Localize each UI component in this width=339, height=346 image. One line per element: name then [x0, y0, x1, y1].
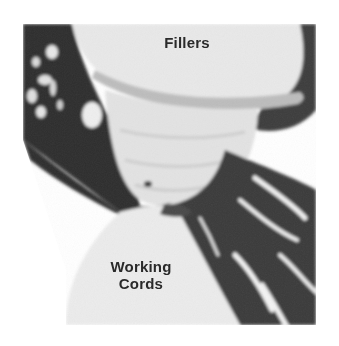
- fillers-label: Fillers: [150, 34, 224, 51]
- working-cords-label-line1: Working: [95, 258, 187, 275]
- macrame-knot-photo: [0, 0, 339, 346]
- working-cords-label-line2: Cords: [95, 275, 187, 292]
- working-cords-label: Working Cords: [95, 258, 187, 292]
